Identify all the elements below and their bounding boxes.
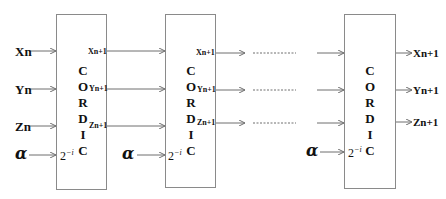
title-letter: I xyxy=(184,127,198,143)
stage-3-shift-label: 2−i xyxy=(348,146,362,159)
shift-exponent: −i xyxy=(354,145,362,154)
title-letter: D xyxy=(184,111,198,127)
title-letter: O xyxy=(76,79,90,95)
shift-exponent: −i xyxy=(174,148,182,157)
input-alpha-label: α xyxy=(15,146,27,162)
title-letter: C xyxy=(76,63,90,79)
title-letter: C xyxy=(363,143,377,159)
cordic-stage-3-title: C O R D I C xyxy=(363,63,377,159)
stage-2-alpha-label: α xyxy=(122,146,134,162)
stage-3-alpha-label: α xyxy=(306,143,318,159)
title-letter: I xyxy=(363,127,377,143)
input-yn-label: Yn xyxy=(15,83,32,96)
title-letter: I xyxy=(76,127,90,143)
title-letter: O xyxy=(184,79,198,95)
title-letter: C xyxy=(363,63,377,79)
final-out-z-label: Zn+1 xyxy=(413,117,438,128)
cordic-stage-2-title: C O R D I C xyxy=(184,63,198,159)
input-xn-label: Xn xyxy=(15,45,32,58)
title-letter: C xyxy=(76,143,90,159)
input-zn-label: Zn xyxy=(15,120,31,133)
stage-2-out-z-label: Zn+1 xyxy=(197,119,215,127)
title-letter: D xyxy=(76,111,90,127)
stage-1-shift-label: 2−i xyxy=(60,149,74,162)
title-letter: C xyxy=(184,63,198,79)
title-letter: D xyxy=(363,111,377,127)
title-letter: C xyxy=(184,143,198,159)
stage-2-out-x-label: Xn+1 xyxy=(196,49,215,57)
title-letter: R xyxy=(76,95,90,111)
stage-1-out-x-label: Xn+1 xyxy=(88,48,107,56)
stage-1-out-z-label: Zn+1 xyxy=(89,122,107,130)
title-letter: O xyxy=(363,79,377,95)
stage-2-shift-label: 2−i xyxy=(168,149,182,162)
title-letter: R xyxy=(184,95,198,111)
shift-exponent: −i xyxy=(66,148,74,157)
final-out-y-label: Yn+1 xyxy=(413,85,439,96)
stage-1-out-y-label: Yn+1 xyxy=(89,85,108,93)
title-letter: R xyxy=(363,95,377,111)
cordic-stage-1-title: C O R D I C xyxy=(76,63,90,159)
final-out-x-label: Xn+1 xyxy=(413,48,439,59)
stage-2-out-y-label: Yn+1 xyxy=(197,86,216,94)
